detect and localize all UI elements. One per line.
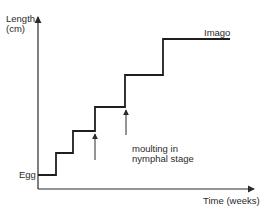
imago-label: Imago bbox=[204, 28, 230, 38]
x-axis-label: Time (weeks) bbox=[203, 196, 260, 206]
y-axis-label: Length (cm) bbox=[6, 14, 35, 34]
egg-label: Egg bbox=[19, 170, 36, 180]
moulting-annotation: moulting in nymphal stage bbox=[132, 144, 194, 164]
y-axis-label-line2: (cm) bbox=[6, 24, 35, 34]
moulting-annotation-line2: nymphal stage bbox=[132, 154, 194, 164]
